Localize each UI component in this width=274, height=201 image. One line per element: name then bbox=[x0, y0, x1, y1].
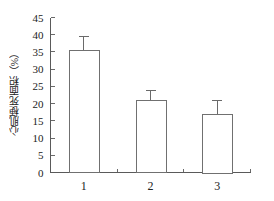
y-tick-label: 25 bbox=[33, 80, 45, 92]
y-tick-label-group: 051015202530354045 bbox=[33, 12, 45, 179]
x-tick-label-group: 123 bbox=[81, 179, 220, 193]
x-tick-label-2: 2 bbox=[148, 179, 154, 193]
x-tick-label-1: 1 bbox=[81, 179, 87, 193]
y-tick-label: 30 bbox=[33, 63, 45, 75]
y-tick-label: 35 bbox=[33, 46, 45, 58]
y-tick-label: 20 bbox=[33, 98, 45, 110]
bar-3 bbox=[203, 115, 233, 174]
bar-group bbox=[70, 51, 233, 174]
bar-2 bbox=[137, 101, 167, 173]
y-tick-group bbox=[51, 18, 55, 173]
y-tick-label: 45 bbox=[33, 12, 45, 24]
y-tick-label: 0 bbox=[38, 167, 44, 179]
y-tick-label: 5 bbox=[38, 149, 44, 161]
bar-1 bbox=[70, 51, 100, 173]
y-tick-label: 10 bbox=[33, 132, 45, 144]
bar-chart-plot: 051015202530354045 123 bbox=[0, 0, 274, 201]
x-tick-label-3: 3 bbox=[214, 179, 220, 193]
y-tick-label: 40 bbox=[33, 29, 45, 41]
y-tick-label: 15 bbox=[33, 115, 45, 127]
chart-figure: 心肌梗死面积（%） 051015202530354045 123 bbox=[0, 0, 274, 201]
